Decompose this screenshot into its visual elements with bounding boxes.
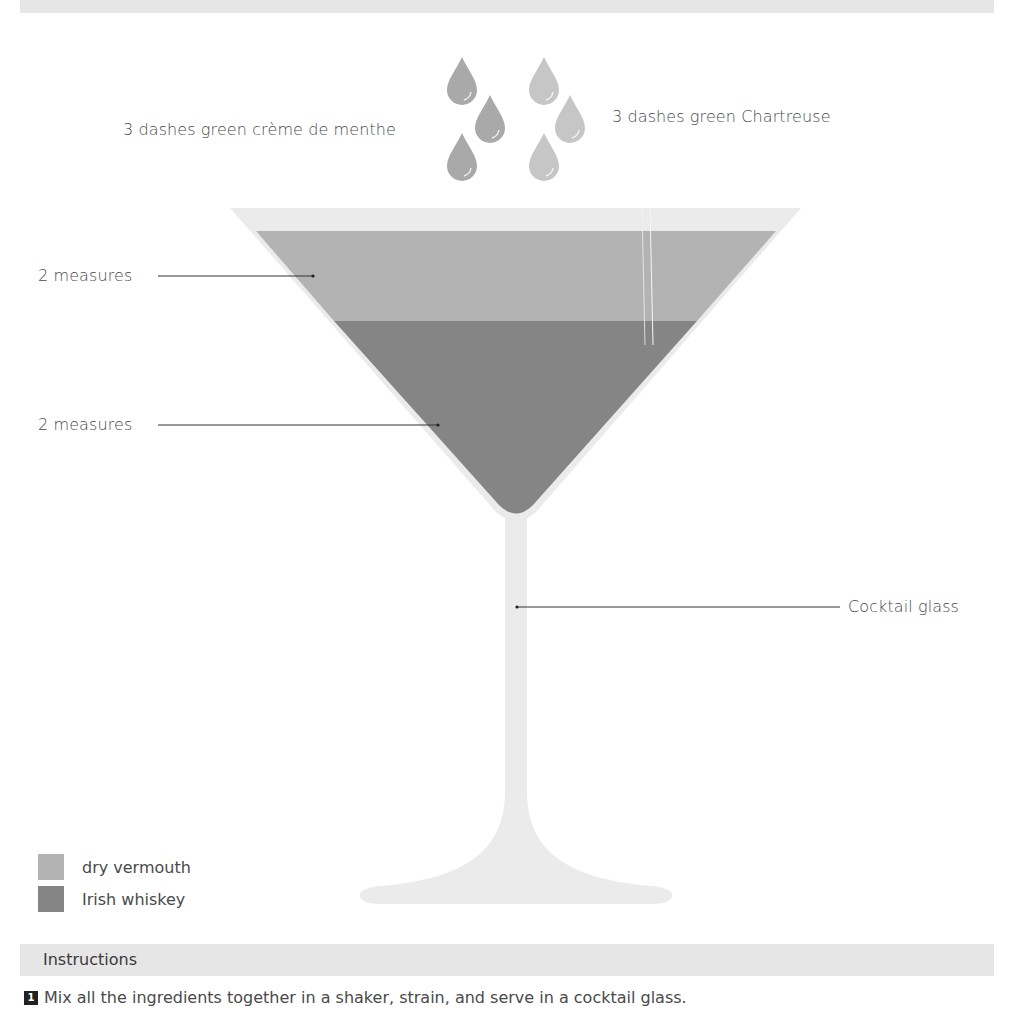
creme-de-menthe-label: 3 dashes green crème de menthe (123, 120, 396, 139)
instructions-title: Instructions (43, 950, 137, 969)
chartreuse-drops-icon (529, 57, 585, 181)
step-number-badge: 1 (24, 991, 38, 1005)
cocktail-glass-label: Cocktail glass (848, 597, 959, 616)
creme-de-menthe-drops-icon (447, 57, 505, 181)
dry-vermouth-layer (256, 231, 776, 321)
instructions-header: Instructions (20, 944, 994, 976)
dry-vermouth-measure-label: 2 measures (38, 266, 132, 285)
chartreuse-label: 3 dashes green Chartreuse (612, 107, 831, 126)
step-text: Mix all the ingredients together in a sh… (44, 988, 687, 1007)
irish-whiskey-swatch (38, 886, 64, 912)
legend-item-irish-whiskey: Irish whiskey (38, 883, 191, 915)
irish-whiskey-layer (334, 321, 697, 514)
glass-stem (505, 515, 527, 805)
glass-foot (360, 790, 672, 904)
legend-item-dry-vermouth: dry vermouth (38, 851, 191, 883)
legend: dry vermouth Irish whiskey (38, 851, 191, 915)
instruction-step: 1 Mix all the ingredients together in a … (24, 988, 687, 1007)
dry-vermouth-swatch (38, 854, 64, 880)
legend-label: Irish whiskey (82, 890, 185, 909)
irish-whiskey-measure-label: 2 measures (38, 415, 132, 434)
legend-label: dry vermouth (82, 858, 191, 877)
